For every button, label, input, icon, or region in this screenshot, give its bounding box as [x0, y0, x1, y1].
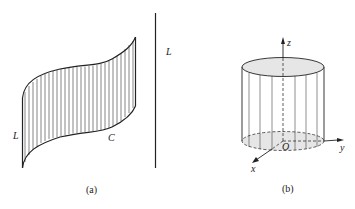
x-axis	[256, 149, 272, 160]
caption-b: (b)	[282, 183, 294, 195]
caption-a: (a)	[86, 184, 97, 196]
label-l-left: L	[12, 130, 19, 141]
label-z: z	[286, 37, 291, 48]
figure-canvas: L C L (a) z y	[0, 0, 355, 209]
label-l-right: L	[165, 46, 172, 57]
panel-a: L C L (a)	[12, 13, 172, 196]
label-y: y	[339, 142, 345, 153]
top-curve	[23, 37, 136, 98]
label-x: x	[250, 163, 256, 174]
z-arrow-icon	[281, 37, 285, 44]
panel-b: z y x O (b)	[242, 37, 345, 195]
label-origin: O	[282, 141, 289, 152]
label-c: C	[108, 132, 115, 143]
curve-c	[23, 106, 136, 168]
y-axis	[324, 140, 338, 141]
